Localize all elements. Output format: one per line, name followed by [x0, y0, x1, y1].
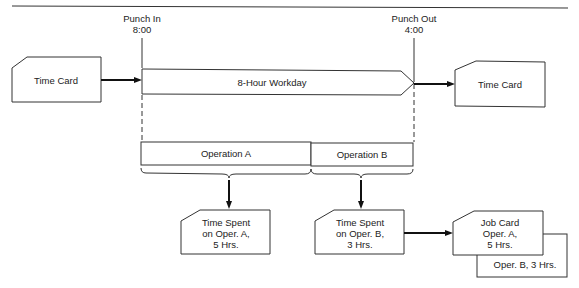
arrow-workday-to-timecard: [414, 81, 455, 87]
job-card-front: Job Card Oper. A, 5 Hrs.: [453, 211, 543, 255]
job-card-back-label: Oper. B, 3 Hrs.: [494, 259, 557, 270]
arrow-brace-b-down: [358, 180, 364, 209]
workday-bar: 8-Hour Workday: [142, 69, 414, 95]
time-spent-a-card: Time Spent on Oper. A, 5 Hrs.: [181, 210, 270, 254]
time-card-in-label: Time Card: [34, 75, 78, 86]
operation-b-label: Operation B: [337, 149, 388, 160]
time-spent-b-line3: 3 Hrs.: [347, 239, 372, 250]
header-rule: [12, 6, 568, 8]
time-spent-a-line2: on Oper. A,: [202, 228, 250, 239]
brace-b: [311, 169, 413, 178]
job-card-line3: 5 Hrs.: [487, 239, 512, 250]
brace-a: [141, 168, 311, 178]
operations-bar: Operation A Operation B: [141, 142, 413, 166]
arrow-timespent-to-jobcard: [404, 230, 453, 236]
time-card-out: Time Card: [455, 61, 545, 107]
time-and-job-card-diagram: Punch In 8:00 Punch Out 4:00 Time Card 8…: [0, 0, 579, 288]
punch-in-time: 8:00: [133, 24, 152, 35]
time-spent-a-line3: 5 Hrs.: [213, 239, 238, 250]
time-spent-b-line2: on Oper. B,: [336, 228, 384, 239]
time-spent-b-card: Time Spent on Oper. B, 3 Hrs.: [315, 210, 404, 254]
arrow-timecard-to-workday: [101, 77, 142, 83]
time-card-out-label: Time Card: [478, 79, 522, 90]
job-card-line2: Oper. A,: [483, 228, 517, 239]
time-spent-b-line1: Time Spent: [336, 217, 385, 228]
workday-label: 8-Hour Workday: [238, 77, 307, 88]
operation-a-label: Operation A: [201, 148, 252, 159]
job-card-line1: Job Card: [481, 217, 520, 228]
time-spent-a-line1: Time Spent: [202, 217, 251, 228]
time-card-in: Time Card: [12, 57, 101, 102]
arrow-brace-a-down: [226, 180, 232, 209]
punch-in-label: Punch In: [123, 13, 161, 24]
punch-out-time: 4:00: [405, 24, 424, 35]
punch-out-label: Punch Out: [392, 13, 437, 24]
